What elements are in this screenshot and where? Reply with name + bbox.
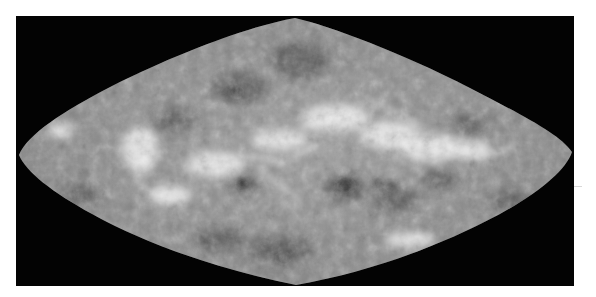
surface-layer: [0, 0, 596, 297]
frame-edge-mark: [574, 186, 582, 187]
planet-map: [0, 0, 596, 297]
